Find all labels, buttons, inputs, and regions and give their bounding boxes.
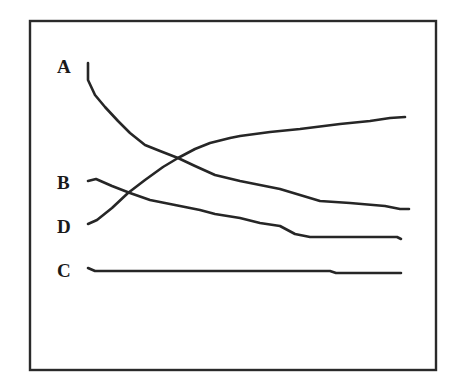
chart-frame xyxy=(30,21,436,370)
series-d-label: D xyxy=(57,216,71,237)
line-chart: A B D C xyxy=(0,0,459,392)
series-c-label: C xyxy=(57,260,71,281)
series-d-line xyxy=(88,117,405,224)
series-c: C xyxy=(57,260,401,281)
series-b-label: B xyxy=(57,172,70,193)
series-c-line xyxy=(88,268,401,273)
series-b: B xyxy=(57,172,401,239)
series-d: D xyxy=(57,117,405,237)
series-a-label: A xyxy=(57,56,71,77)
